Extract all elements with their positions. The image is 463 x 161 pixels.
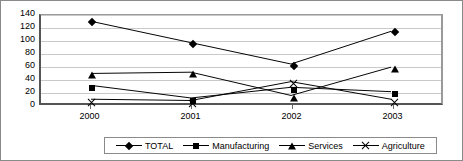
- cross-marker-icon: [188, 99, 197, 108]
- legend-item[interactable]: Agriculture: [353, 140, 425, 151]
- y-axis-tick-label: 140: [5, 9, 35, 18]
- x-axis-tick-label: 2001: [169, 111, 213, 121]
- series-lines-layer: [41, 15, 441, 103]
- cross-marker-icon: [289, 79, 298, 88]
- legend-item[interactable]: Services: [279, 140, 343, 151]
- y-axis-tick-label: 100: [5, 35, 35, 44]
- line-chart-figure: 140120100806040200 2000200120022003 TOTA…: [0, 0, 463, 161]
- legend-swatch: [353, 140, 379, 151]
- y-axis: 140120100806040200: [1, 1, 35, 161]
- y-axis-tick-label: 40: [5, 74, 35, 83]
- triangle-marker-icon: [288, 142, 296, 149]
- legend-label: Agriculture: [382, 141, 425, 151]
- x-axis-tick-mark: [292, 105, 293, 109]
- legend-swatch: [116, 140, 142, 151]
- x-axis-tick-label: 2000: [68, 111, 112, 121]
- y-axis-tick-label: 60: [5, 61, 35, 70]
- legend-label: Manufacturing: [212, 141, 269, 151]
- series-line-total: [91, 21, 391, 64]
- x-axis-tick-mark: [393, 105, 394, 109]
- legend-label: TOTAL: [145, 141, 173, 151]
- square-marker-icon: [89, 85, 95, 91]
- legend-swatch: [183, 140, 209, 151]
- y-axis-tick-label: 0: [5, 100, 35, 109]
- x-axis-tick-label: 2003: [371, 111, 415, 121]
- legend-label: Services: [308, 141, 343, 151]
- legend-swatch: [279, 140, 305, 151]
- legend-item[interactable]: TOTAL: [116, 140, 173, 151]
- square-marker-icon: [392, 91, 398, 97]
- y-axis-tick-label: 120: [5, 22, 35, 31]
- x-axis-tick-mark: [191, 105, 192, 109]
- triangle-marker-icon: [290, 95, 298, 102]
- square-marker-icon: [193, 143, 199, 149]
- chart-legend: TOTALManufacturingServicesAgriculture: [104, 137, 437, 154]
- x-axis-tick-label: 2002: [270, 111, 314, 121]
- plot-area: [39, 14, 443, 105]
- diamond-marker-icon: [125, 141, 133, 149]
- triangle-marker-icon: [189, 71, 197, 78]
- legend-item[interactable]: Manufacturing: [183, 140, 269, 151]
- cross-marker-icon: [361, 141, 370, 150]
- cross-marker-icon: [390, 98, 399, 107]
- y-axis-tick-label: 20: [5, 87, 35, 96]
- triangle-marker-icon: [88, 72, 96, 79]
- cross-marker-icon: [87, 98, 96, 107]
- x-axis-tick-mark: [90, 105, 91, 109]
- y-axis-tick-label: 80: [5, 48, 35, 57]
- triangle-marker-icon: [391, 65, 399, 72]
